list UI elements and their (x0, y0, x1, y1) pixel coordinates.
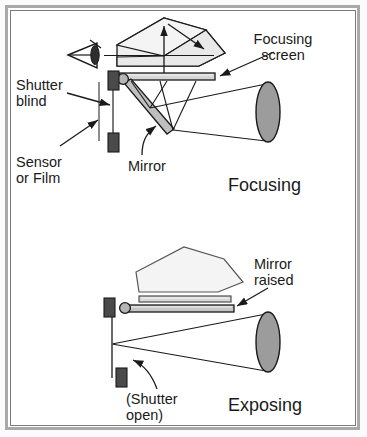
leader-lines-focusing (60, 52, 274, 155)
label-shutter-blind-line1: Shutter (16, 77, 63, 93)
label-state-exposing: Exposing (228, 395, 302, 415)
mirror-pivot (120, 303, 131, 314)
lens (256, 312, 280, 372)
label-focusing-screen-line1: Focusing (254, 31, 313, 47)
slr-camera-diagram: Focusing screen Shutter blind Sensor or … (0, 0, 367, 437)
label-focusing-screen-line2: screen (261, 47, 305, 63)
focusing-screen-bar (119, 73, 215, 80)
pentaprism (136, 247, 243, 292)
leader-shutter-open (133, 360, 157, 389)
label-shutter-open-line2: open) (126, 407, 163, 423)
label-mirror-raised-line1: Mirror (254, 256, 292, 272)
leader-mirror (142, 126, 156, 155)
leader-lines-exposing (133, 288, 268, 389)
label-shutter-open-line1: (Shutter (126, 391, 178, 407)
diagram-root: Focusing screen Shutter blind Sensor or … (0, 0, 367, 437)
light-rays-exposing (112, 314, 266, 371)
focusing-screen-bar (139, 296, 231, 302)
label-state-focusing: Focusing (228, 175, 301, 195)
panel-focusing: Focusing screen Shutter blind Sensor or … (16, 18, 312, 195)
panel-exposing: Mirror raised (Shutter open) Exposing (104, 247, 302, 423)
label-mirror-raised-line2: raised (254, 272, 294, 288)
label-mirror: Mirror (128, 158, 166, 174)
label-shutter-blind-line2: blind (16, 93, 47, 109)
label-sensor-or-film-line1: Sensor (16, 154, 62, 170)
shutter-blind-closed (108, 71, 119, 152)
label-sensor-or-film-line2: or Film (16, 170, 60, 186)
pentaprism (117, 18, 225, 66)
leader-shutter-blind (67, 93, 110, 105)
mirror-raised-bar (126, 305, 234, 312)
leader-sensor-film (60, 120, 98, 146)
lens (256, 82, 280, 142)
leader-mirror-raised (237, 288, 268, 306)
eye-icon (68, 40, 101, 68)
